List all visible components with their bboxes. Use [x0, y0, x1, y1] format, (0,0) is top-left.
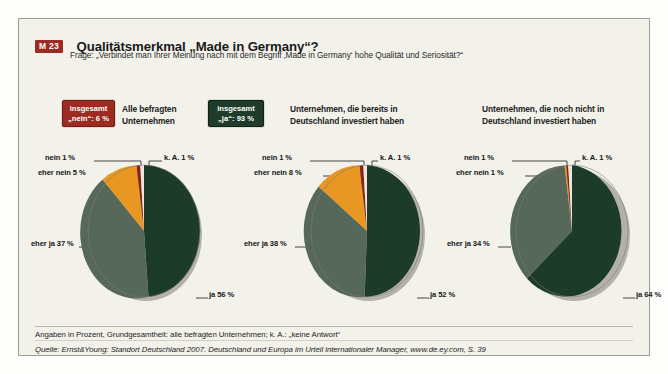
- chart-frame: M 23 Qualitätsmerkmal „Made in Germany“?…: [18, 18, 650, 356]
- pie-3-label-ka: k. A. 1 %: [582, 153, 612, 162]
- pie-3-label-ja: ja 64 %: [636, 290, 661, 299]
- footer-divider-2: [35, 340, 633, 341]
- pie-3-label-eher-nein: eher nein 1 %: [456, 168, 504, 177]
- footer-note: Angaben in Prozent, Grundgesamtheit: all…: [35, 330, 340, 339]
- pie-3-label-nein: nein 1 %: [464, 153, 494, 162]
- pie-title-not-invested: Unternehmen, die noch nicht in Deutschla…: [482, 104, 642, 128]
- total-nein-badge-line1: insgesamt: [68, 104, 109, 114]
- pie-2-label-ka: k. A. 1 %: [380, 153, 410, 162]
- pie-chart-all-companies: nein 1 % k. A. 1 % eher nein 5 % eher ja…: [31, 139, 253, 319]
- total-ja-badge-line1: insgesamt: [214, 104, 258, 114]
- total-nein-badge-line2: „nein“: 6 %: [68, 114, 109, 124]
- pie-1-label-eher-ja: eher ja 37 %: [31, 239, 74, 248]
- pie-1-label-eher-nein: eher nein 5 %: [38, 168, 86, 177]
- pie-2-label-eher-ja: eher ja 38 %: [244, 239, 287, 248]
- pie-2-label-eher-nein: eher nein 8 %: [254, 168, 302, 177]
- material-number-badge: M 23: [35, 40, 63, 53]
- pie-1-label-nein: nein 1 %: [45, 153, 75, 162]
- survey-question: Frage: „Verbindet man Ihrer Meinung nach…: [70, 50, 463, 60]
- pie-3-label-eher-ja: eher ja 34 %: [447, 239, 490, 248]
- pie-2-label-nein: nein 1 %: [262, 153, 292, 162]
- footer-divider: [35, 326, 633, 327]
- pie-title-invested: Unternehmen, die bereits in Deutschland …: [290, 104, 440, 128]
- pie-2-label-ja: ja 52 %: [430, 290, 455, 299]
- pie-1-label-ja: ja 56 %: [209, 290, 234, 299]
- total-ja-badge-line2: „ja“: 93 %: [214, 114, 258, 124]
- footer-source: Quelle: Ernst&Young: Standort Deutschlan…: [35, 345, 486, 354]
- total-ja-badge: insgesamt „ja“: 93 %: [208, 100, 264, 127]
- pie-chart-invested: nein 1 % k. A. 1 % eher nein 8 % eher ja…: [254, 139, 476, 319]
- infographic-page: M 23 Qualitätsmerkmal „Made in Germany“?…: [0, 0, 668, 374]
- pie-chart-not-invested: nein 1 % k. A. 1 % eher nein 1 % eher ja…: [459, 139, 668, 319]
- pie-title-all-companies: Alle befragten Unternehmen: [122, 104, 204, 128]
- pie-1-label-ka: k. A. 1 %: [164, 153, 194, 162]
- total-nein-badge: insgesamt „nein“: 6 %: [62, 100, 115, 127]
